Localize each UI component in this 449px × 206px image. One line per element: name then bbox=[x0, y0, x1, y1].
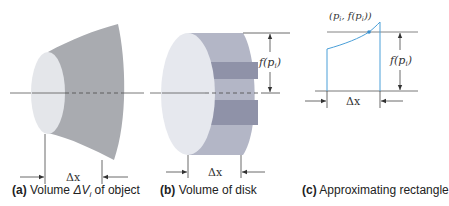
panel-b-disk: f(pi) Δx bbox=[150, 33, 290, 179]
panel-a-object: Δx bbox=[10, 24, 144, 184]
caption-a-tag: (a) bbox=[12, 183, 27, 197]
point-label-c: (pi, f(pi)) bbox=[329, 10, 372, 23]
caption-a-post: of object bbox=[91, 183, 140, 197]
delta-x-label-c: Δx bbox=[346, 95, 361, 108]
disk-left-face bbox=[161, 33, 215, 155]
disk-band-upper bbox=[210, 62, 258, 79]
sample-point bbox=[367, 30, 371, 34]
caption-c: (c) Approximating rectangle bbox=[302, 183, 449, 197]
delta-x-label-b: Δx bbox=[208, 166, 223, 179]
f-pi-label-c: f(pi) bbox=[389, 54, 412, 68]
caption-b-tag: (b) bbox=[160, 183, 175, 197]
caption-a-pre: Volume bbox=[30, 183, 73, 197]
caption-a-math: ΔV bbox=[73, 183, 89, 197]
caption-a: (a) Volume ΔVi of object bbox=[12, 183, 140, 199]
caption-b: (b) Volume of disk bbox=[160, 183, 257, 197]
caption-c-text: Approximating rectangle bbox=[319, 183, 448, 197]
panel-c-rectangle: (pi, f(pi)) f(pi) Δx bbox=[305, 10, 418, 108]
function-curve bbox=[327, 22, 380, 49]
caption-b-text: Volume of disk bbox=[179, 183, 257, 197]
f-pi-label-b: f(pi) bbox=[258, 56, 281, 70]
caption-c-tag: (c) bbox=[302, 183, 317, 197]
disk-band-lower bbox=[210, 100, 258, 125]
